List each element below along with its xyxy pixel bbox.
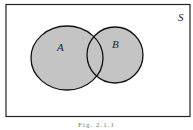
figure-caption: Fig. 2.1.1 [0,121,193,129]
set-b-label: B [112,38,119,50]
universe-label: S [178,11,184,23]
venn-diagram: A B S [0,0,193,130]
set-a-label: A [56,41,64,53]
